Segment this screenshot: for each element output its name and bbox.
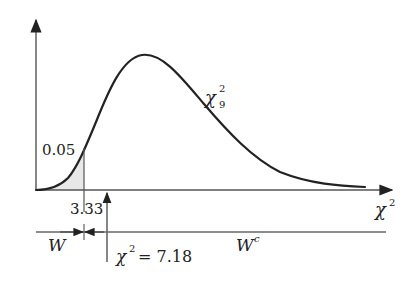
svg-text:= 7.18: = 7.18 — [138, 247, 192, 266]
svg-text:9: 9 — [219, 99, 225, 110]
rejection-region-label: W — [48, 235, 67, 255]
distribution-label: χ 2 9 — [203, 83, 225, 110]
test-statistic-label: χ 2 = 7.18 — [115, 243, 192, 266]
chi-square-diagram: 0.05 3.33 χ 2 9 χ 2 W χ 2 = 7.18 W c — [0, 0, 416, 285]
density-curve — [36, 55, 365, 190]
svg-text:χ: χ — [203, 87, 217, 108]
svg-text:c: c — [254, 233, 260, 244]
svg-text:χ: χ — [115, 246, 128, 266]
area-label: 0.05 — [42, 141, 75, 159]
svg-text:χ: χ — [373, 199, 387, 220]
x-axis-label: χ 2 — [373, 197, 395, 220]
svg-text:2: 2 — [389, 197, 395, 208]
svg-text:2: 2 — [129, 243, 135, 254]
svg-text:W: W — [236, 235, 255, 255]
svg-text:2: 2 — [219, 83, 225, 94]
acceptance-region-label: W c — [236, 233, 260, 255]
critical-value-label: 3.33 — [70, 200, 103, 218]
